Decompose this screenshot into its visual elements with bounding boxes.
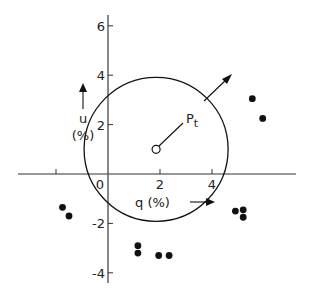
radius-label: Pt <box>186 111 199 130</box>
data-point <box>66 213 73 220</box>
data-point <box>135 242 142 249</box>
polarization-diagram: 024642-2-4 Pt u (%) q (%) <box>0 0 311 291</box>
data-point <box>59 204 66 211</box>
data-point <box>240 206 247 213</box>
data-point <box>259 115 266 122</box>
u-arrowhead-icon <box>79 83 87 92</box>
y-tick-label: -2 <box>92 216 105 231</box>
data-point <box>155 252 162 259</box>
data-point <box>166 252 173 259</box>
radius-line <box>159 123 183 146</box>
u-axis-label: u <box>79 111 87 126</box>
data-point <box>249 95 256 102</box>
data-point <box>240 214 247 221</box>
y-tick-label: 2 <box>97 118 105 133</box>
data-point <box>135 250 142 257</box>
u-axis-unit: (%) <box>72 128 95 143</box>
x-tick-label: 2 <box>156 177 164 192</box>
q-axis-label: q (%) <box>135 195 170 210</box>
y-tick-label: 4 <box>97 68 105 83</box>
radius-arrow-line <box>204 78 228 101</box>
data-point <box>232 208 239 215</box>
y-tick-label: -4 <box>92 266 105 281</box>
axis-ticks <box>56 26 212 273</box>
q-arrowhead-icon <box>206 198 215 206</box>
center-marker <box>152 145 160 153</box>
y-tick-label: 6 <box>97 19 105 34</box>
